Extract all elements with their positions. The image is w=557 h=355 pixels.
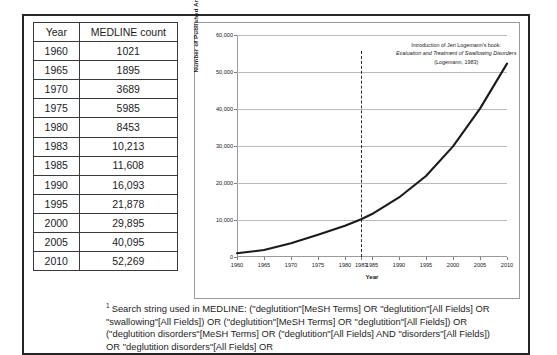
x-tick-label: 1975 (312, 262, 324, 268)
x-tick-label: 2010 (501, 262, 513, 268)
chart-annotation: Introduction of Jeri Logemann's book: Ev… (361, 41, 551, 66)
x-tick-label: 1960 (231, 262, 243, 268)
y-tick-label: 30,000 (216, 143, 233, 149)
x-tick-mark (345, 257, 346, 260)
x-tick-mark (264, 257, 265, 260)
y-tick-label: 10,000 (216, 217, 233, 223)
table-row: 19601021 (34, 42, 178, 61)
x-tick-mark (318, 257, 319, 260)
table-row: 200540,095 (34, 233, 178, 252)
table-row: 199521,878 (34, 194, 178, 213)
x-tick-label: 1980 (339, 262, 351, 268)
figure-body: Year MEDLINE count 19601021 19651895 197… (24, 16, 528, 355)
cell-count: 21,878 (79, 194, 177, 213)
x-tick-mark (507, 257, 508, 260)
x-tick-mark (237, 257, 238, 260)
x-tick-mark (480, 257, 481, 260)
cell-year: 1983 (34, 137, 80, 156)
annotation-line-3: (Logemann, 1983) (361, 58, 551, 66)
cell-year: 1990 (34, 175, 80, 194)
x-tick-label: 1985 (366, 262, 378, 268)
x-tick-mark (426, 257, 427, 260)
table-row: 19808453 (34, 118, 178, 137)
cell-count: 52,269 (79, 252, 177, 271)
table-row: 198511,608 (34, 156, 178, 175)
x-tick-mark (372, 257, 373, 260)
table-row: 19703689 (34, 80, 178, 99)
x-tick-mark (361, 257, 362, 260)
cell-count: 8453 (79, 118, 177, 137)
table-header-year: Year (34, 23, 80, 42)
cell-year: 1980 (34, 118, 80, 137)
y-tick-label: 20,000 (216, 180, 233, 186)
table-header-count: MEDLINE count (79, 23, 177, 42)
x-tick-label: 1970 (285, 262, 297, 268)
series-line (237, 35, 507, 257)
cell-count: 40,095 (79, 233, 177, 252)
cell-year: 2010 (34, 252, 80, 271)
cell-count: 11,608 (79, 156, 177, 175)
x-tick-label: 1995 (420, 262, 432, 268)
table-row: 199016,093 (34, 175, 178, 194)
y-tick-label: 40,000 (216, 106, 233, 112)
cell-year: 1975 (34, 99, 80, 118)
cell-count: 29,895 (79, 213, 177, 232)
annotation-line-2: Evaluation and Treatment of Swallowing D… (361, 49, 551, 57)
cell-count: 5985 (79, 99, 177, 118)
x-axis-title: Year (237, 273, 507, 280)
plot-area: 010,00020,00030,00040,00050,00060,000 19… (237, 35, 507, 257)
x-tick-label: 2005 (474, 262, 486, 268)
event-marker-line-1983 (361, 51, 362, 257)
table-header-row: Year MEDLINE count (34, 23, 178, 42)
cell-count: 1021 (79, 42, 177, 61)
table-row: 201052,269 (34, 252, 178, 271)
medline-count-table: Year MEDLINE count 19601021 19651895 197… (33, 22, 178, 271)
x-tick-label: 2000 (447, 262, 459, 268)
figure-page: Year MEDLINE count 19601021 19651895 197… (0, 0, 557, 355)
table-row: 200029,895 (34, 213, 178, 232)
footnote-marker: 1 (106, 302, 110, 309)
cell-count: 16,093 (79, 175, 177, 194)
cell-year: 2000 (34, 213, 80, 232)
table-row: 19651895 (34, 61, 178, 80)
x-tick-label: 1965 (258, 262, 270, 268)
cell-count: 3689 (79, 80, 177, 99)
cell-count: 1895 (79, 61, 177, 80)
cell-year: 2005 (34, 233, 80, 252)
y-tick-label: 60,000 (216, 32, 233, 38)
table-row: 19755985 (34, 99, 178, 118)
cell-count: 10,213 (79, 137, 177, 156)
x-tick-mark (291, 257, 292, 260)
cell-year: 1970 (34, 80, 80, 99)
y-tick-label: 0 (230, 254, 233, 260)
y-axis-title: Number of Published Articles (192, 0, 199, 93)
footnote-text: Search string used in MEDLINE: ("degluti… (106, 303, 490, 352)
footnote: 1Search string used in MEDLINE: ("deglut… (106, 302, 506, 353)
y-tick-label: 50,000 (216, 69, 233, 75)
x-tick-mark (453, 257, 454, 260)
line-chart: Number of Published Articles 010,00020,0… (194, 22, 520, 299)
table-body: 19601021 19651895 19703689 19755985 1980… (34, 42, 178, 271)
table-row: 198310,213 (34, 137, 178, 156)
cell-year: 1985 (34, 156, 80, 175)
cell-year: 1965 (34, 61, 80, 80)
cell-year: 1960 (34, 42, 80, 61)
x-tick-mark (399, 257, 400, 260)
annotation-line-1: Introduction of Jeri Logemann's book: (361, 41, 551, 49)
x-tick-label: 1990 (393, 262, 405, 268)
cell-year: 1995 (34, 194, 80, 213)
